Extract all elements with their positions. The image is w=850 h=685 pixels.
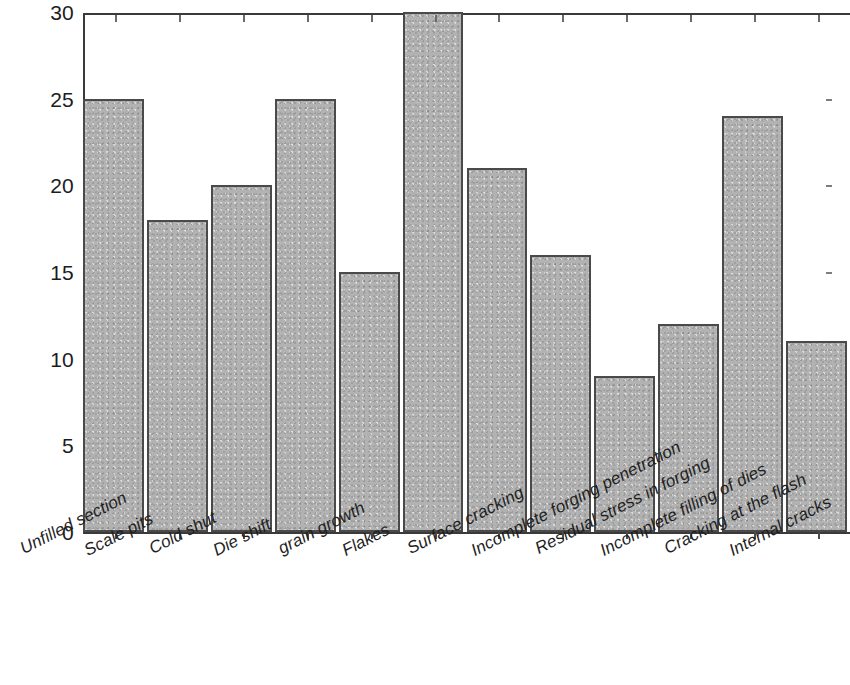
- bar: [83, 99, 144, 532]
- bar: [403, 12, 464, 532]
- y-tick-label: 5: [62, 434, 74, 458]
- top-tick-mark: [754, 15, 756, 22]
- bar-series: [83, 13, 850, 533]
- y-tick-label: 30: [50, 1, 74, 25]
- top-tick-mark: [498, 15, 500, 22]
- top-tick-mark: [626, 15, 628, 22]
- top-tick-mark: [818, 15, 820, 22]
- bar: [467, 168, 528, 532]
- bar: [275, 99, 336, 532]
- bar: [147, 220, 208, 532]
- top-tick-mark: [435, 15, 437, 22]
- y-tick-label: 25: [50, 88, 74, 112]
- bar: [211, 185, 272, 532]
- top-tick-mark: [243, 15, 245, 22]
- bar: [339, 272, 400, 532]
- y-tick-label: 15: [50, 261, 74, 285]
- top-tick-mark: [690, 15, 692, 22]
- top-tick-mark: [307, 15, 309, 22]
- y-tick-label: 20: [50, 174, 74, 198]
- top-tick-mark: [562, 15, 564, 22]
- y-tick-label: 10: [50, 348, 74, 372]
- top-tick-mark: [115, 15, 117, 22]
- top-tick-mark: [179, 15, 181, 22]
- x-axis-category-labels: Unfilled sectionScale pitsCold shutDie s…: [0, 533, 850, 685]
- plot-area: 051015202530: [83, 13, 850, 533]
- top-tick-mark: [371, 15, 373, 22]
- bar-chart-figure: 051015202530 Unfilled sectionScale pitsC…: [0, 0, 850, 685]
